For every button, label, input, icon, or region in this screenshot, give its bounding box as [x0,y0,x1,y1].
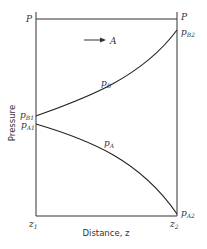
z2-label: z2 [169,219,179,230]
pA1-label: pA1 [21,120,35,131]
total-pressure-right-label: P [180,12,188,22]
pA2-label: pA2 [181,208,195,219]
flux-label: A [109,36,117,46]
total-pressure-left-label: P [25,14,33,24]
pA-curve-label: pA [104,138,115,149]
pB-curve-label: pB [101,78,112,89]
pB-curve [36,30,177,116]
z1-label: z1 [28,219,38,230]
arrowhead-icon [100,38,106,43]
diagram-canvas: A P P pB2 pB pB1 pA1 pA pA2 z1 z2 Distan… [0,0,207,249]
x-axis-title: Distance, z [82,228,130,238]
y-axis-title: Pressure [7,105,17,141]
pB2-label: pB2 [181,27,195,38]
